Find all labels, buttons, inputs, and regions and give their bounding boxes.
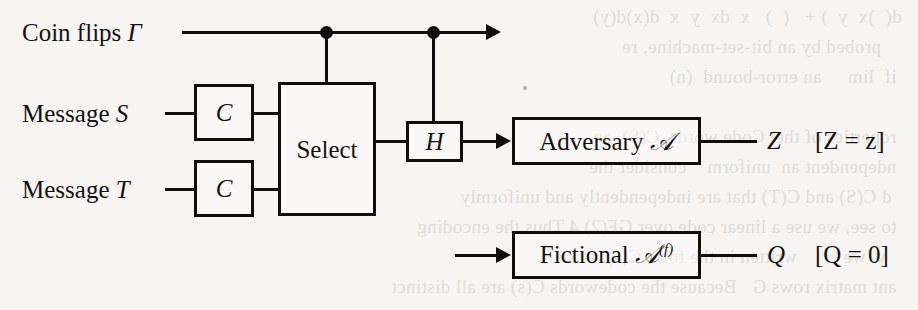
adversary-output-condition: [Z = z] <box>815 128 885 153</box>
channel-h-box: H <box>406 121 463 162</box>
select-label: Select <box>296 137 357 162</box>
fictional-adversary-label-symbol: 𝒜 <box>635 241 659 270</box>
encoder-t-to-select-wire <box>254 188 280 191</box>
coin-flips-branch-to-h <box>432 32 435 124</box>
adversary-output-wire <box>701 140 757 143</box>
channel-h-label: H <box>425 129 443 154</box>
adversary-label-symbol: 𝒜 <box>650 127 674 156</box>
message-t-label-symbol: T <box>116 176 130 203</box>
coin-flips-label: Coin flips Γ <box>22 20 142 45</box>
fictional-input-arrowhead <box>496 247 511 263</box>
encoder-t-box: C <box>194 160 254 217</box>
coin-flips-wire <box>182 31 487 34</box>
message-s-label-text: Message <box>22 100 109 127</box>
coin-flips-label-text: Coin flips <box>22 19 121 46</box>
fictional-adversary-label-text: Fictional <box>540 242 629 269</box>
fictional-output-symbol: Q <box>767 242 785 267</box>
coin-flips-label-symbol: Γ <box>128 19 142 46</box>
fictional-output-condition: [Q = 0] <box>815 242 889 267</box>
scan-speck <box>523 86 527 90</box>
coin-flips-arrowhead <box>486 24 501 40</box>
encoder-s-to-select-wire <box>254 112 280 115</box>
message-s-label: Message S <box>22 101 128 126</box>
coin-flips-branch-to-select <box>325 32 328 84</box>
message-t-wire <box>165 188 195 191</box>
adversary-box: Adversary 𝒜 <box>512 117 701 165</box>
fictional-adversary-box: Fictional 𝒜(f) <box>512 231 701 279</box>
fictional-adversary-label: Fictional 𝒜(f) <box>540 242 673 267</box>
encoder-s-label: C <box>216 100 233 125</box>
encoder-t-label: C <box>216 176 233 201</box>
adversary-label: Adversary 𝒜 <box>539 129 673 154</box>
adversary-output-symbol: Z <box>767 128 781 153</box>
message-t-label: Message T <box>22 177 130 202</box>
adversary-input-arrowhead <box>496 133 511 149</box>
select-box: Select <box>278 82 376 216</box>
adversary-label-text: Adversary <box>539 128 643 155</box>
message-s-wire <box>165 112 195 115</box>
coin-flips-to-fictional-wire <box>455 254 501 257</box>
select-to-h-wire <box>375 140 407 143</box>
fictional-output-wire <box>701 254 757 257</box>
encoder-s-box: C <box>194 84 254 141</box>
fictional-adversary-label-superscript: (f) <box>659 241 673 257</box>
message-s-label-symbol: S <box>116 100 129 127</box>
figure-canvas: d( )x y ) + ( ) x dx y x d(x)d(y) probed… <box>0 0 918 310</box>
message-t-label-text: Message <box>22 176 109 203</box>
